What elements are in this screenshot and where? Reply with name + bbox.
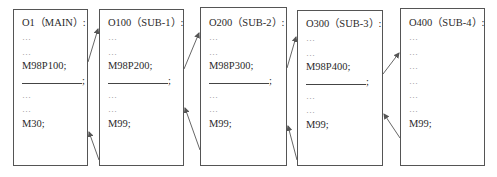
return-arrow-sub2-to-sub1 <box>185 108 200 150</box>
call-arrow-sub2-to-sub3 <box>287 37 296 68</box>
return-arrow-sub1-to-main <box>89 132 99 160</box>
call-arrow-main-to-sub1 <box>88 29 98 62</box>
arrow-layer <box>0 0 497 177</box>
return-arrow-sub4-to-sub3 <box>384 114 400 138</box>
call-arrow-sub1-to-sub2 <box>184 33 199 69</box>
call-arrow-sub3-to-sub4 <box>383 53 399 74</box>
return-arrow-sub3-to-sub2 <box>288 126 297 160</box>
